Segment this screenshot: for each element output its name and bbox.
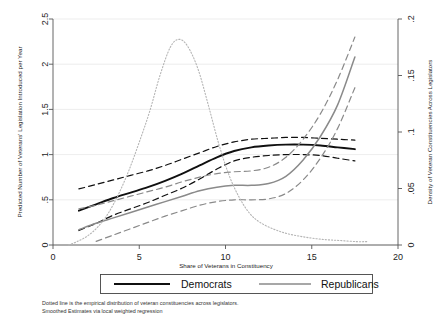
y2-tick-label: 0 <box>406 242 416 247</box>
y-tick-label: 0 <box>40 242 50 247</box>
y-tick-label: 2 <box>40 62 50 67</box>
y2-tick-label: .1 <box>406 128 416 136</box>
x-tick-label: 5 <box>137 252 142 262</box>
veterans-legislation-chart: 0.511.522.5 0.05.1.15.2 05101520 Predict… <box>0 0 444 322</box>
x-axis-title: Share of Veterans in Constituency <box>179 262 273 269</box>
legend-label-republicans: Republicans <box>321 278 379 290</box>
footnote-line-1: Dotted line is the empirical distributio… <box>42 300 239 306</box>
legend-label-democrats: Democrats <box>181 278 232 290</box>
chart-background <box>0 0 444 322</box>
y2-tick-label: .05 <box>406 182 416 195</box>
x-tick-label: 0 <box>50 252 55 262</box>
chart-figure: 0.511.522.5 0.05.1.15.2 05101520 Predict… <box>0 0 444 322</box>
y-tick-label: 2.5 <box>40 13 50 26</box>
x-tick-label: 15 <box>307 252 317 262</box>
y2-tick-label: .2 <box>406 15 416 23</box>
y2-tick-label: .15 <box>406 69 416 82</box>
x-tick-label: 20 <box>393 252 403 262</box>
y-tick-label: 1 <box>40 152 50 157</box>
y2-axis-title: Density of Veteran Constituencies Across… <box>426 60 433 205</box>
y-axis-title: Predicted Number of Veterans' Legislatio… <box>16 46 23 217</box>
x-tick-label: 10 <box>220 252 230 262</box>
footnote-line-2: Smoothed Estimates via local weighted re… <box>42 308 162 314</box>
y-tick-label: 1.5 <box>40 103 50 116</box>
y-tick-label: .5 <box>40 196 50 204</box>
